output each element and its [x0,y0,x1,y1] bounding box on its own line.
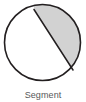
circle-segment-diagram [0,0,86,102]
segment-figure: Segment [0,0,86,102]
figure-caption: Segment [0,90,86,101]
